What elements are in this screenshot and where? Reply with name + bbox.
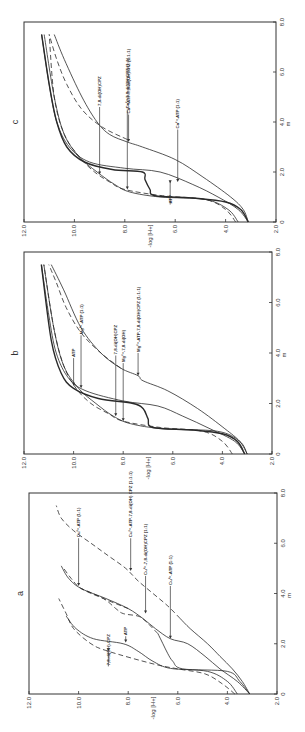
panel-letter: a xyxy=(15,591,25,596)
annotation-label: Mg²⁺-ATP (1:1) xyxy=(79,304,84,335)
x-tick-label: 0 xyxy=(279,220,285,224)
arrowhead-icon xyxy=(144,611,147,614)
curve-7-8-di-oh-cpz xyxy=(59,599,235,694)
x-axis-label: m xyxy=(285,122,291,127)
curve-cu2-atp-1-1- xyxy=(61,566,249,694)
arrowhead-icon xyxy=(126,187,129,190)
arrowhead-icon xyxy=(124,639,127,642)
curve-ca2-7-8-di-oh-cpz-1-1- xyxy=(44,35,238,223)
curve-7-8-di-oh-cpz xyxy=(49,35,235,223)
x-tick-label: 2.0 xyxy=(279,167,285,176)
annotation-label: 7,8-di(OH)CPZ xyxy=(97,76,102,106)
y-tick-label: 6.0 xyxy=(175,696,181,705)
arrowhead-icon xyxy=(114,413,117,416)
annotation-label: Ca²⁺-ATP (1:1) xyxy=(175,99,180,129)
annotation-label: Cu²⁺-ATP (1:1) xyxy=(76,507,81,537)
y-axis-label: -log [H+] xyxy=(147,224,153,247)
panel-a: 2.04.06.08.010.012.002.04.06.08.0m-log [… xyxy=(15,471,292,720)
figure: 2.04.06.08.010.012.002.04.06.08.0m-log [… xyxy=(0,0,305,732)
x-tick-label: 0 xyxy=(280,692,286,696)
y-tick-label: 8.0 xyxy=(125,696,131,705)
curve-cu2-atp-dashed xyxy=(64,568,128,608)
y-tick-label: 12.0 xyxy=(21,224,27,236)
annotation-label: ATP xyxy=(123,627,128,636)
annotation-label: Ca²⁺-ATP-7,8-di(OH)CPZ (1:1:1) xyxy=(126,48,131,113)
curve-ca2-atp-1-1- xyxy=(42,35,249,223)
arrowhead-icon xyxy=(129,568,132,571)
y-tick-label: 10.0 xyxy=(71,224,77,236)
x-tick-label: 6.0 xyxy=(279,67,285,76)
y-tick-label: 2.0 xyxy=(269,456,275,465)
y-tick-label: 4.0 xyxy=(224,696,230,705)
y-axis-label: -log [H+] xyxy=(145,456,151,479)
x-tick-label: 2.0 xyxy=(275,399,281,408)
y-tick-label: 10.0 xyxy=(76,696,82,708)
y-tick-label: 6.0 xyxy=(170,456,176,465)
annotation-label: Cu²⁺-7,8-di(OH)CPZ (1:1) xyxy=(143,523,148,575)
x-axis-label: m xyxy=(286,593,292,598)
y-tick-label: 12.0 xyxy=(26,696,32,708)
y-tick-label: 12.0 xyxy=(21,456,27,468)
x-tick-label: 0 xyxy=(275,452,281,456)
y-tick-label: 2.0 xyxy=(273,224,279,233)
curve-cu2-atp-7-8-di-oh-cpz-dashed xyxy=(56,506,180,619)
annotation-label: Cu²⁺-ATP-7,8-di(OH) CPZ (1:1:1) xyxy=(128,471,133,538)
arrowhead-icon xyxy=(77,583,80,586)
panel-letter: b xyxy=(10,350,20,355)
x-tick-label: 6.0 xyxy=(280,538,286,547)
y-tick-label: 10.0 xyxy=(71,456,77,468)
y-tick-label: 6.0 xyxy=(172,224,178,233)
annotation-label: Cu²⁺-ATP (1:1) xyxy=(168,555,173,585)
y-tick-label: 2.0 xyxy=(274,696,280,705)
annotation-label: ATP xyxy=(168,195,173,204)
arrowhead-icon xyxy=(169,180,172,183)
arrowhead-icon xyxy=(176,179,179,182)
panel-c: 2.04.06.08.010.012.002.04.06.08.0m-log [… xyxy=(10,17,291,247)
annotation-label: Mg²⁺-ATP-7,8-di(OH)CPZ (1:1:1) xyxy=(136,286,141,352)
panel-letter: c xyxy=(10,119,20,124)
annotation-label: 7,8-di(OH)-CPZ xyxy=(106,634,111,666)
x-tick-label: 8.0 xyxy=(279,17,285,26)
annotation-label: Mg²⁺-7,8-di(OH) xyxy=(121,329,126,362)
x-tick-label: 8.0 xyxy=(280,488,286,497)
annotation-label: 7,8-di(OH)CPZ xyxy=(113,324,118,354)
panel-b: 2.04.06.08.010.012.002.04.06.08.0m-log [… xyxy=(10,247,287,479)
annotation-label: ATP xyxy=(71,349,76,358)
y-tick-label: 4.0 xyxy=(219,456,225,465)
curve-cu2-7-8-di-oh-cpz-1-1- xyxy=(158,634,250,694)
x-axis-label: m xyxy=(281,353,287,358)
curve-atp xyxy=(42,35,249,223)
x-tick-label: 6.0 xyxy=(275,298,281,307)
y-tick-label: 8.0 xyxy=(120,456,126,465)
curve-atp xyxy=(41,265,244,454)
y-axis-label: -log [H+] xyxy=(150,696,156,719)
y-tick-label: 4.0 xyxy=(223,224,229,233)
curve-mg2-atp-1-1- xyxy=(41,265,244,454)
y-tick-label: 8.0 xyxy=(122,224,128,233)
x-tick-label: 8.0 xyxy=(275,247,281,256)
curve-mg2-7-8-di-oh- xyxy=(44,265,247,454)
x-tick-label: 2.0 xyxy=(280,639,286,648)
